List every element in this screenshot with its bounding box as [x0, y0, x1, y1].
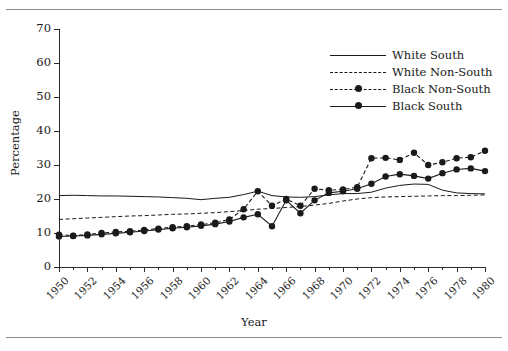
series-marker — [226, 218, 232, 224]
series-line-white-south — [59, 184, 485, 200]
legend-swatch-icon — [330, 66, 386, 78]
series-marker — [453, 155, 459, 161]
series-marker — [212, 221, 218, 227]
series-marker — [368, 181, 374, 187]
legend-swatch-icon — [330, 100, 386, 112]
legend-item-label: Black Non-South — [392, 82, 491, 96]
series-marker — [240, 214, 246, 220]
legend-item-label: Black South — [392, 99, 462, 113]
legend-line-icon — [330, 72, 386, 73]
chart-figure: · · · · 010203040506070 1950195219541956… — [0, 0, 508, 351]
series-marker — [269, 223, 275, 229]
legend-item[interactable]: Black Non-South — [330, 80, 490, 97]
series-marker — [255, 188, 261, 194]
series-marker — [155, 226, 161, 232]
series-marker — [84, 232, 90, 238]
series-marker — [397, 171, 403, 177]
legend-line-icon — [330, 55, 386, 56]
series-marker — [70, 233, 76, 239]
series-marker — [269, 203, 275, 209]
series-marker — [297, 203, 303, 209]
series-marker — [297, 210, 303, 216]
legend-item[interactable]: White Non-South — [330, 63, 490, 80]
series-marker — [141, 228, 147, 234]
series-marker — [368, 155, 374, 161]
series-marker — [127, 229, 133, 235]
series-marker — [382, 173, 388, 179]
series-marker — [340, 188, 346, 194]
legend-item[interactable]: White South — [330, 46, 490, 63]
series-marker — [240, 206, 246, 212]
series-marker — [425, 175, 431, 181]
series-marker — [482, 148, 488, 154]
series-marker — [468, 165, 474, 171]
series-marker — [397, 157, 403, 163]
legend-marker-icon — [355, 102, 362, 109]
series-marker — [311, 186, 317, 192]
chart-legend: White SouthWhite Non-SouthBlack Non-Sout… — [330, 46, 490, 114]
series-marker — [283, 197, 289, 203]
series-marker — [439, 170, 445, 176]
series-marker — [198, 223, 204, 229]
series-marker — [439, 159, 445, 165]
series-marker — [468, 154, 474, 160]
series-marker — [98, 231, 104, 237]
legend-item-label: White Non-South — [392, 65, 493, 79]
legend-swatch-icon — [330, 83, 386, 95]
series-marker — [425, 162, 431, 168]
legend-item[interactable]: Black South — [330, 97, 490, 114]
series-marker — [311, 197, 317, 203]
series-marker — [354, 186, 360, 192]
legend-swatch-icon — [330, 49, 386, 61]
series-marker — [411, 173, 417, 179]
series-marker — [56, 233, 62, 239]
series-line-black-non-south — [59, 151, 485, 236]
series-marker — [482, 168, 488, 174]
series-marker — [411, 150, 417, 156]
series-marker — [453, 166, 459, 172]
legend-marker-icon — [355, 85, 362, 92]
series-marker — [184, 224, 190, 230]
series-marker — [382, 155, 388, 161]
series-marker — [255, 211, 261, 217]
series-marker — [326, 190, 332, 196]
series-marker — [113, 230, 119, 236]
legend-item-label: White South — [392, 48, 464, 62]
series-marker — [169, 225, 175, 231]
